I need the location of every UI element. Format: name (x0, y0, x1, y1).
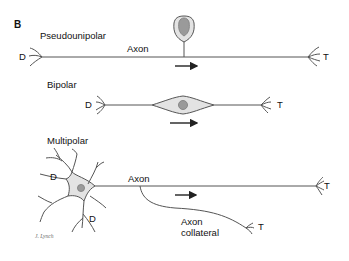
bipolar-title: Bipolar (47, 80, 77, 90)
axon-collateral-label-line2: collateral (181, 227, 219, 238)
nucleus-icon (78, 185, 85, 192)
dendrite-tuft-icon (96, 96, 105, 114)
collateral-terminal-tuft-icon (246, 223, 254, 234)
multipolar-axon-label: Axon (128, 174, 150, 184)
neuron-types-diagram: B Pseudounipolar D Axon T Bipolar D T Mu… (0, 0, 349, 261)
bipolar-neuron (96, 96, 271, 114)
pseudounipolar-dendrite-label: D (19, 52, 26, 62)
multipolar-dendrite-label-1: D (50, 172, 57, 182)
pseudounipolar-neuron (29, 16, 320, 66)
dendrite-tuft-icon (29, 48, 42, 66)
multipolar-terminal-label: T (324, 181, 330, 191)
collateral-terminal-label: T (258, 222, 264, 232)
pseudounipolar-axon-label: Axon (127, 44, 149, 54)
multipolar-title: Multipolar (47, 136, 88, 146)
multipolar-dendrite-label-2: D (89, 214, 96, 224)
bipolar-dendrite-label: D (85, 100, 92, 110)
bipolar-terminal-label: T (277, 100, 283, 110)
terminal-tuft-icon (316, 177, 324, 195)
terminal-tuft-icon (261, 97, 271, 113)
terminal-tuft-icon (308, 47, 320, 66)
pseudounipolar-title: Pseudounipolar (40, 31, 106, 41)
panel-letter: B (14, 20, 21, 30)
axon-collateral-label-line1: Axon (181, 216, 203, 227)
artist-signature: J. Lynch (35, 234, 53, 240)
pseudounipolar-terminal-label: T (323, 52, 329, 62)
nucleus-icon (179, 101, 188, 110)
